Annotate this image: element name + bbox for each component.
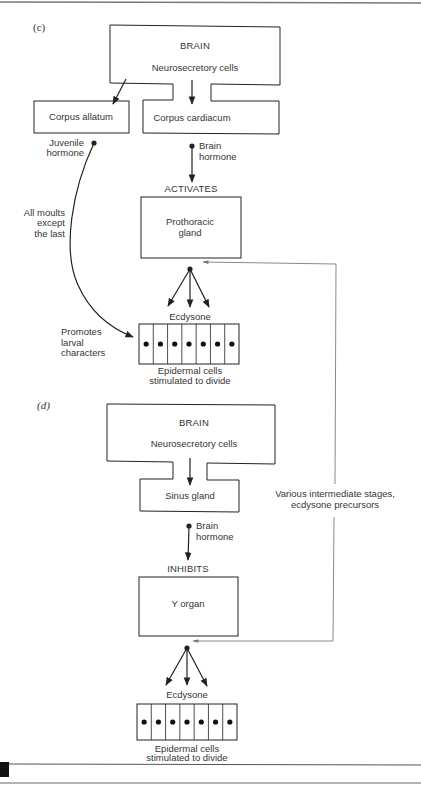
- cell-nucleus: [172, 341, 177, 346]
- brain-hormone-d-label-2: hormone: [196, 531, 234, 542]
- juvenile-hormone-curve-arrow: [70, 143, 133, 337]
- brain-d-subtitle: Neurosecretory cells: [114, 438, 274, 449]
- feedback-vertical-lower: [333, 517, 334, 641]
- epidermal-cells-c: [139, 324, 239, 364]
- bottom-page-rule: [9, 764, 421, 765]
- feedback-label-2: ecdysone precursors: [255, 499, 415, 510]
- epidermal-d-label-2: stimulated to divide: [107, 752, 267, 763]
- all-moults-label-2: except: [0, 217, 65, 228]
- all-moults-label-3: the last: [0, 228, 65, 239]
- brain-hormone-c-label-1: Brain: [199, 140, 221, 151]
- brain-hormone-d-label-1: Brain: [196, 520, 218, 531]
- brain-c-subtitle: Neurosecretory cells: [115, 62, 275, 73]
- epidermal-cells-d: [137, 704, 237, 740]
- brain-c-title: BRAIN: [115, 40, 275, 51]
- endocrine-moulting-diagram: (c) BRAIN Neurosecretory cells Corpus al…: [0, 0, 421, 786]
- cell-nucleus: [156, 719, 161, 724]
- panel-c-label: (c): [33, 22, 45, 33]
- corpus-cardiacum-label: Corpus cardiacum: [112, 112, 272, 123]
- promotes-label-3: characters: [61, 347, 105, 358]
- ecdysone-d-label: Ecdysone: [107, 689, 267, 700]
- cell-nucleus: [227, 719, 232, 724]
- arrow-brain-hormone-d: [188, 526, 189, 560]
- prothoracic-gland-label-2: gland: [110, 227, 270, 238]
- top-page-rule: [0, 2, 421, 3]
- inhibits-label: INHIBITS: [108, 563, 268, 574]
- cell-nucleus: [186, 341, 191, 346]
- feedback-label-1: Various intermediate stages,: [255, 488, 415, 499]
- ecdysone-d-arrow-right: [187, 648, 207, 686]
- ecdysone-c-arrow-right: [190, 269, 209, 307]
- y-organ-label: Y organ: [108, 598, 268, 609]
- activates-label: ACTIVATES: [111, 183, 271, 194]
- cell-nucleus: [201, 341, 206, 346]
- cell-nucleus: [215, 341, 220, 346]
- juvenile-hormone-label-2: hormone: [0, 147, 84, 158]
- ecdysone-c-label: Ecdysone: [110, 311, 270, 322]
- cell-nucleus: [170, 719, 175, 724]
- feedback-arrow-to-prothoracic: [203, 262, 336, 264]
- feedback-vertical-upper: [335, 264, 336, 484]
- promotes-label-1: Promotes: [61, 326, 102, 337]
- cell-nucleus: [142, 719, 147, 724]
- brain-d-title: BRAIN: [114, 417, 274, 428]
- cell-nucleus: [213, 719, 218, 724]
- sinus-gland-label: Sinus gland: [110, 490, 270, 501]
- cell-nucleus: [229, 341, 234, 346]
- epidermal-c-label-2: stimulated to divide: [110, 375, 270, 386]
- cell-nucleus: [199, 719, 204, 724]
- cell-nucleus: [158, 341, 163, 346]
- ecdysone-c-arrow-left: [168, 269, 190, 306]
- cell-nucleus: [184, 719, 189, 724]
- brain-hormone-c-label-2: hormone: [199, 151, 237, 162]
- cell-nucleus: [144, 341, 149, 346]
- page-corner-mark: [0, 762, 9, 777]
- ecdysone-d-arrow-left: [166, 648, 187, 685]
- panel-d-label: (d): [37, 400, 50, 411]
- prothoracic-gland-label-1: Prothoracic: [110, 216, 270, 227]
